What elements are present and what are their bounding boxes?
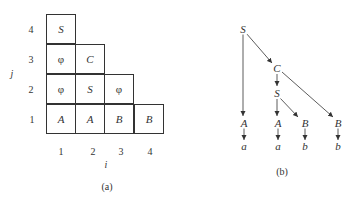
tree-leaf-b2: b xyxy=(334,141,342,152)
tree-node-b1: B xyxy=(301,118,310,129)
parse-tree-edges xyxy=(0,0,354,198)
caption-b: (b) xyxy=(276,166,288,177)
tree-node-root-s: S xyxy=(239,24,247,35)
tree-node-s: S xyxy=(273,88,281,99)
tree-leaf-b1: b xyxy=(301,141,309,152)
tree-node-c: C xyxy=(272,63,281,74)
tree-node-a2: A xyxy=(274,118,283,129)
tree-node-b2: B xyxy=(334,118,343,129)
tree-node-a1: A xyxy=(240,118,249,129)
tree-leaf-a1: a xyxy=(240,141,248,152)
tree-leaf-a2: a xyxy=(274,141,282,152)
